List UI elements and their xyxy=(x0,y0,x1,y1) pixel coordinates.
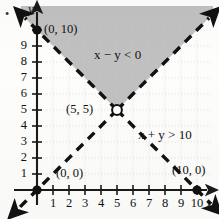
point-x-intercept xyxy=(192,185,201,194)
point-y-intercept xyxy=(32,25,41,34)
point-origin xyxy=(32,185,41,194)
graph-canvas xyxy=(0,0,219,219)
inequality-graph-figure: • y x 1 2 3 4 5 6 7 8 9 1 2 3 4 5 6 7 8 … xyxy=(0,0,219,219)
point-intersection-open xyxy=(112,105,122,115)
